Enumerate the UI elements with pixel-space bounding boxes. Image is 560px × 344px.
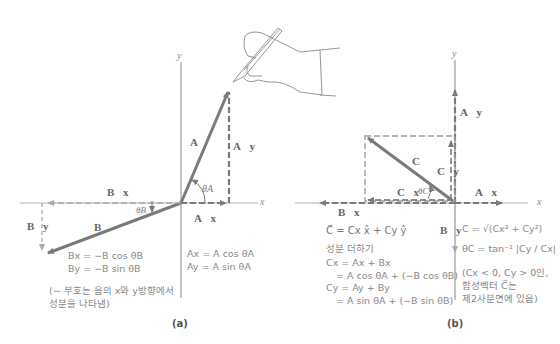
adding-components-title: 성분 더하기 <box>326 242 374 255</box>
label-cy: C⃗y <box>437 165 459 177</box>
label-by-b: B⃗y <box>440 224 461 236</box>
sign-note: (− 부호는 음의 x와 y방향에서 성분을 나타냄) <box>49 284 174 310</box>
label-bx-b: B⃗x <box>338 206 359 218</box>
resultant-equation: C⃗ = Cx x̂ + Cy ŷ <box>326 225 406 238</box>
label-c: C⃗ <box>412 155 429 167</box>
equation-bx: Bx = −B cos θB <box>68 250 143 263</box>
label-ay-b: A⃗y <box>460 106 482 118</box>
label-ay: A⃗y <box>233 140 255 152</box>
angle-equation: θC = tan⁻¹ |Cy / Cx| <box>462 243 556 256</box>
label-a: A⃗ <box>190 136 207 148</box>
x-axis-label-a: x <box>260 196 264 207</box>
x-axis-label-b: x <box>537 196 541 207</box>
label-theta-a: θA <box>202 183 213 194</box>
label-bx: B⃗x <box>107 186 128 198</box>
label-ax: A⃗x <box>194 212 216 224</box>
label-theta-c: θC <box>418 186 428 196</box>
caption-b: (b) <box>447 318 463 329</box>
vector-b <box>48 203 181 253</box>
equation-b-list: Bx = −B cos θB By = −B sin θB <box>68 250 143 275</box>
quadrant-note: (Cx < 0, Cy > 0인, 합성벡터 C⃗는 제2사분면에 있음) <box>462 266 548 305</box>
equation-a-list: Ax = A cos θA Ay = A sin θA <box>187 248 254 273</box>
magnitude-equation: C = √(Cx² + Cy²) <box>462 223 542 236</box>
label-b: B⃗ <box>94 221 110 233</box>
label-theta-b: θB <box>136 205 146 215</box>
sum-equations: Cx = Ax + Bx = A cos θA + (−B cos θB) Cy… <box>326 257 458 307</box>
hand-with-pencil-icon <box>233 28 340 96</box>
y-axis-label-b: y <box>452 48 456 59</box>
label-ax-b: A⃗x <box>475 186 497 198</box>
caption-a: (a) <box>172 318 188 329</box>
equation-by: By = −B sin θB <box>68 263 143 276</box>
label-cx: C⃗x <box>397 186 419 198</box>
y-axis-label-a: y <box>177 50 181 61</box>
label-by: B⃗y <box>27 220 48 232</box>
equation-ay: Ay = A sin θA <box>187 261 254 274</box>
equation-ax: Ax = A cos θA <box>187 248 254 261</box>
